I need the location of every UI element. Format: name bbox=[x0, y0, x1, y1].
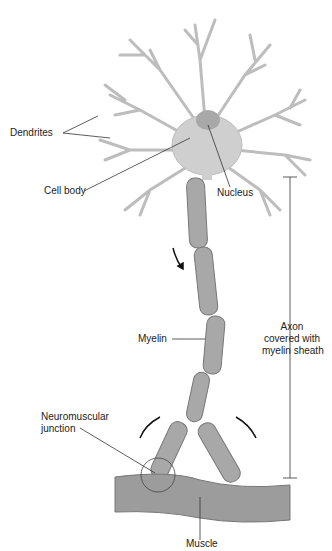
label-cell-body: Cell body bbox=[44, 185, 86, 197]
label-neuromuscular-junction: Neuromuscular junction bbox=[41, 411, 109, 435]
label-muscle: Muscle bbox=[186, 538, 218, 550]
axon-graphic bbox=[148, 178, 243, 486]
neuron-diagram bbox=[0, 0, 332, 551]
label-dendrites: Dendrites bbox=[10, 127, 53, 139]
nucleus-graphic bbox=[196, 110, 220, 130]
label-nucleus: Nucleus bbox=[217, 187, 253, 199]
label-axon: Axon covered with myelin sheath bbox=[262, 321, 322, 357]
muscle-graphic bbox=[115, 474, 290, 522]
label-myelin: Myelin bbox=[138, 333, 167, 345]
